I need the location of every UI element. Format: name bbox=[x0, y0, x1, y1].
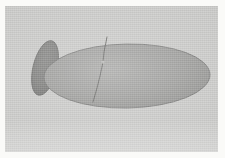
body-ellipse bbox=[43, 43, 210, 110]
suture-node bbox=[101, 60, 104, 63]
specimen-illustration bbox=[5, 6, 218, 152]
scanned-plate bbox=[5, 6, 218, 152]
figure-root bbox=[0, 0, 225, 158]
